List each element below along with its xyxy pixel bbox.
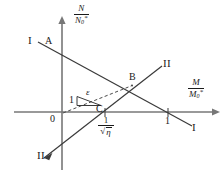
point-C-label: C <box>96 104 103 114</box>
line-I-label-right: I <box>192 122 196 133</box>
y-axis-arrowhead <box>58 16 65 24</box>
origin-label: 0 <box>50 114 55 124</box>
point-B-marker <box>131 85 133 87</box>
line-II-label-lower: II <box>37 150 45 161</box>
y-axis-label-numerator: N <box>74 4 89 13</box>
tick-fraction-numerator: 1 <box>98 116 114 125</box>
x-axis-label-denominator: M0* <box>188 90 204 99</box>
x-axis-label-numerator: M <box>188 78 204 87</box>
x-axis-arrowhead <box>212 108 220 115</box>
y-axis <box>58 16 65 170</box>
figure-canvas: N N0* M M0* 0 I I II II A B C 1 ε 1 √η 1 <box>0 0 224 176</box>
point-B-label: B <box>129 72 136 82</box>
tick-fraction-denominator: √η <box>98 126 114 136</box>
x-tick-label-1: 1 <box>165 116 170 126</box>
radicand-eta: η <box>106 127 111 137</box>
line-I <box>38 42 192 126</box>
radical-sign: √ <box>100 126 105 136</box>
y-axis-label-denominator: N0* <box>74 16 89 25</box>
slope-epsilon-label: ε <box>86 88 90 97</box>
x-axis-label: M M0* <box>188 78 204 100</box>
x-axis <box>14 108 220 115</box>
point-A-label: A <box>45 36 52 46</box>
slope-triangle-vertical-label: 1 <box>69 95 74 105</box>
line-II-label-upper: II <box>163 58 171 69</box>
x-tick-label-1-over-sqrt-eta: 1 √η <box>98 116 114 137</box>
y-axis-label: N N0* <box>74 4 89 26</box>
line-I-label-left: I <box>28 35 32 46</box>
